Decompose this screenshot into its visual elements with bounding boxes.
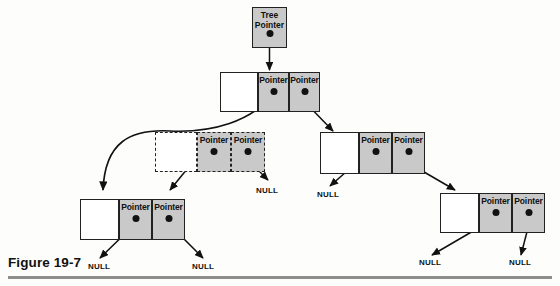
figure-binary-tree-node-removal: Tree Pointer Pointer Pointer Pointer Poi… bbox=[0, 0, 560, 286]
node-detached-data-cell bbox=[155, 132, 197, 172]
null-right-grandchild-left: NULL bbox=[419, 258, 441, 267]
node-right-grandchild-left-pointer-label: Pointer bbox=[481, 196, 510, 206]
node-right-child-right-pointer-label: Pointer bbox=[394, 135, 423, 145]
node-root-right-pointer-dot bbox=[301, 88, 308, 95]
node-right-child-data-cell bbox=[320, 132, 359, 174]
figure-caption: Figure 19-7 bbox=[8, 255, 81, 270]
node-right-grandchild: Pointer Pointer bbox=[440, 193, 545, 233]
node-root: Pointer Pointer bbox=[220, 72, 320, 112]
node-left-grandchild-data-cell bbox=[80, 199, 119, 240]
node-left-grandchild-left-pointer-cell: Pointer bbox=[119, 199, 152, 240]
node-left-grandchild-right-pointer-cell: Pointer bbox=[152, 199, 185, 240]
node-right-child-left-pointer-label: Pointer bbox=[361, 135, 390, 145]
node-detached-left-pointer-cell: Pointer bbox=[197, 132, 231, 172]
node-root-left-pointer-label: Pointer bbox=[259, 75, 288, 85]
node-detached-right-pointer-cell: Pointer bbox=[231, 132, 265, 172]
node-root-right-pointer-cell: Pointer bbox=[289, 72, 320, 112]
node-right-child-left-pointer-dot bbox=[372, 148, 379, 155]
bottom-rule-divider bbox=[8, 276, 552, 279]
node-root-data-cell bbox=[220, 72, 258, 112]
node-left-grandchild-right-pointer-label: Pointer bbox=[154, 202, 183, 212]
node-right-child: Pointer Pointer bbox=[320, 132, 425, 174]
node-right-child-left-pointer-cell: Pointer bbox=[359, 132, 392, 174]
null-detached-right: NULL bbox=[256, 186, 278, 195]
node-right-grandchild-right-pointer-dot bbox=[525, 209, 532, 216]
node-detached-left-pointer-dot bbox=[211, 148, 218, 155]
node-left-grandchild: Pointer Pointer bbox=[80, 199, 185, 240]
node-right-grandchild-left-pointer-cell: Pointer bbox=[479, 193, 512, 233]
node-detached-left-pointer-label: Pointer bbox=[200, 135, 229, 145]
node-left-child-detached: Pointer Pointer bbox=[155, 132, 265, 172]
node-right-grandchild-right-pointer-label: Pointer bbox=[514, 196, 543, 206]
node-left-grandchild-left-pointer-label: Pointer bbox=[121, 202, 150, 212]
node-right-child-right-pointer-cell: Pointer bbox=[392, 132, 425, 174]
node-right-grandchild-right-pointer-cell: Pointer bbox=[512, 193, 545, 233]
null-right-grandchild-right: NULL bbox=[509, 258, 531, 267]
null-left-grandchild-right: NULL bbox=[192, 262, 214, 271]
node-root-left-pointer-dot bbox=[270, 88, 277, 95]
node-left-grandchild-left-pointer-dot bbox=[132, 215, 139, 222]
node-detached-right-pointer-dot bbox=[245, 148, 252, 155]
null-left-grandchild-left: NULL bbox=[88, 262, 110, 271]
node-right-grandchild-left-pointer-dot bbox=[492, 209, 499, 216]
node-root-right-pointer-label: Pointer bbox=[290, 75, 319, 85]
null-right-child-left: NULL bbox=[317, 190, 339, 199]
node-root-left-pointer-cell: Pointer bbox=[258, 72, 289, 112]
node-left-grandchild-right-pointer-dot bbox=[165, 215, 172, 222]
node-right-grandchild-data-cell bbox=[440, 193, 479, 233]
node-detached-right-pointer-label: Pointer bbox=[234, 135, 263, 145]
node-right-child-right-pointer-dot bbox=[405, 148, 412, 155]
tree-pointer-label-line2: Pointer bbox=[255, 21, 284, 31]
tree-pointer-box: Tree Pointer bbox=[252, 7, 287, 48]
tree-pointer-dot bbox=[266, 30, 273, 37]
